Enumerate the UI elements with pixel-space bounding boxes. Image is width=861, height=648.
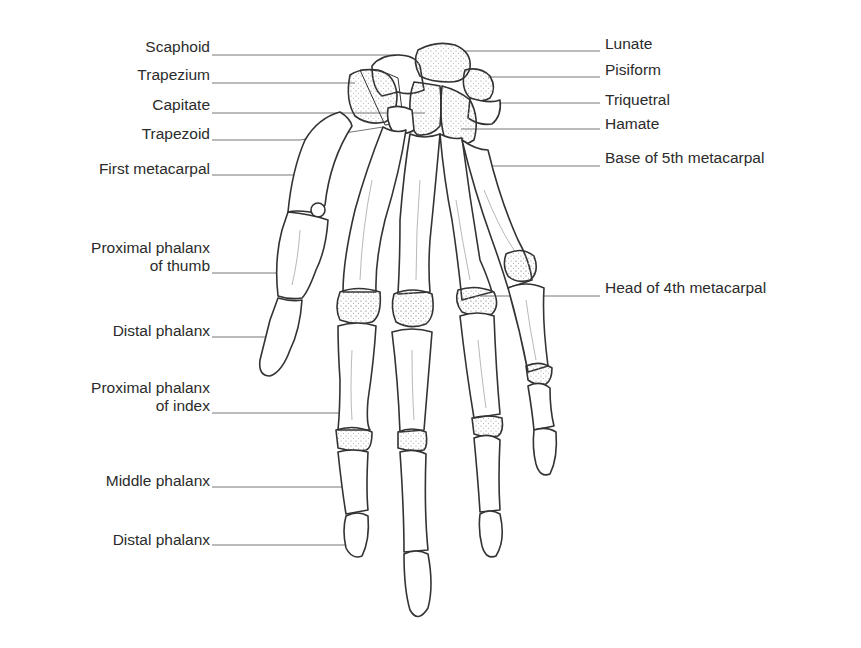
label-distal-phalanx: Distal phalanx: [113, 531, 210, 549]
little-distal-phalanx-bone: [533, 428, 556, 474]
label-trapezoid: Trapezoid: [142, 125, 210, 143]
first-metacarpal-bone: [288, 112, 352, 213]
label-proximal-phalanx-index: Proximal phalanx of index: [91, 379, 210, 415]
label-text: Base of 5th metacarpal: [605, 149, 764, 167]
middle-distal-phalanx-bone: [404, 551, 431, 617]
index-metacarpal-bone: [343, 127, 406, 292]
label-text: of thumb: [91, 257, 210, 275]
label-text: Trapezoid: [142, 125, 210, 143]
label-text: Hamate: [605, 115, 659, 133]
label-text: Proximal phalanx: [91, 379, 210, 397]
label-text: of index: [91, 397, 210, 415]
pisiform-bone: [463, 69, 493, 101]
label-text: First metacarpal: [99, 160, 210, 178]
label-hamate: Hamate: [605, 115, 659, 133]
label-text: Capitate: [152, 96, 210, 114]
label-text: Proximal phalanx: [91, 239, 210, 257]
label-base-5th-metacarpal: Base of 5th metacarpal: [605, 149, 764, 167]
label-trapezium: Trapezium: [137, 66, 210, 84]
lunate-bone: [415, 43, 470, 82]
middle-middle-phalanx-bone: [400, 450, 428, 552]
sesamoid-bone: [311, 203, 325, 217]
label-text: Distal phalanx: [113, 531, 210, 549]
trapezoid-bone: [388, 106, 414, 133]
label-text: Pisiform: [605, 61, 661, 79]
label-lunate: Lunate: [605, 35, 652, 53]
index-proximal-phalanx-bone: [338, 323, 376, 430]
label-text: Scaphoid: [145, 38, 210, 56]
label-text: Triquetral: [605, 91, 670, 109]
hand-skeleton-diagram: Scaphoid Trapezium Capitate Trapezoid Fi…: [0, 0, 861, 648]
label-capitate: Capitate: [152, 96, 210, 114]
little-middle-phalanx-bone: [528, 383, 554, 430]
label-text: Lunate: [605, 35, 652, 53]
label-text: Trapezium: [137, 66, 210, 84]
label-scaphoid: Scaphoid: [145, 38, 210, 56]
middle-metacarpal-bone: [398, 134, 440, 294]
label-text: Head of 4th metacarpal: [605, 279, 766, 297]
label-head-4th-metacarpal: Head of 4th metacarpal: [605, 279, 766, 297]
label-text: Middle phalanx: [106, 472, 210, 490]
label-first-metacarpal: First metacarpal: [99, 160, 210, 178]
ring-proximal-phalanx-bone: [460, 313, 500, 418]
index-distal-phalanx-bone: [344, 513, 368, 557]
label-distal-phalanx-thumb: Distal phalanx: [113, 322, 210, 340]
ring-distal-phalanx-bone: [479, 511, 502, 557]
ring-middle-phalanx-bone: [474, 435, 500, 512]
label-pisiform: Pisiform: [605, 61, 661, 79]
label-proximal-phalanx-thumb: Proximal phalanx of thumb: [91, 239, 210, 275]
index-middle-phalanx-bone: [338, 450, 368, 514]
label-middle-phalanx: Middle phalanx: [106, 472, 210, 490]
label-triquetral: Triquetral: [605, 91, 670, 109]
little-proximal-phalanx-bone: [508, 284, 548, 372]
label-text: Distal phalanx: [113, 322, 210, 340]
proximal-phalanx-thumb-bone: [277, 212, 328, 299]
distal-phalanx-thumb-bone: [260, 298, 302, 376]
